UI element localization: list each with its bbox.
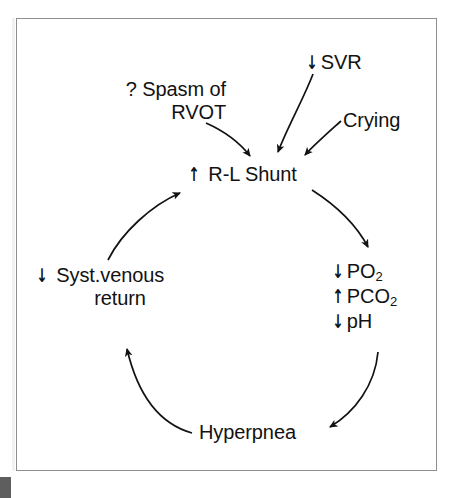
down-arrow-icon: ↓ — [332, 311, 343, 332]
edge-gases-to-hyperpnea — [330, 352, 378, 427]
down-arrow-icon: ↓ — [306, 52, 317, 73]
node-ph: ↓pH — [330, 310, 397, 333]
node-spasm-line1: ? Spasm of — [126, 78, 226, 100]
up-arrow-icon: ↑ — [188, 164, 199, 185]
node-rl-shunt-label: R-L Shunt — [208, 163, 296, 185]
node-spasm-line2: RVOT — [171, 101, 226, 123]
node-hyperpnea: Hyperpnea — [199, 421, 296, 444]
node-svr-label: SVR — [321, 51, 362, 73]
node-po2: ↓PO2 — [330, 260, 397, 285]
node-ph-label: pH — [347, 310, 372, 332]
edge-hyperpnea-to-venous — [127, 349, 192, 433]
edge-crying-to-shunt — [305, 121, 341, 155]
down-arrow-icon: ↓ — [36, 265, 47, 286]
node-pco2-label: PCO — [347, 285, 390, 307]
node-hyperpnea-label: Hyperpnea — [199, 421, 296, 443]
edge-shunt-to-gases — [312, 190, 368, 247]
node-blood-gases: ↓PO2 ↑PCO2 ↓pH — [330, 260, 397, 333]
edge-venous-to-shunt — [108, 193, 180, 260]
node-pco2: ↑PCO2 — [330, 285, 397, 310]
node-systemic-venous-return: ↓ Syst.venous return — [34, 264, 194, 309]
node-crying: Crying — [343, 109, 400, 132]
node-spasm-of-rvot: ? Spasm of RVOT — [104, 78, 226, 123]
node-venous-line2: return — [34, 287, 194, 310]
edge-svr-to-shunt — [278, 74, 313, 152]
node-crying-label: Crying — [343, 109, 400, 131]
edge-spasm-to-shunt — [206, 123, 250, 156]
node-po2-subscript: 2 — [376, 269, 383, 284]
node-po2-label: PO — [347, 260, 376, 282]
node-svr: ↓SVR — [304, 51, 362, 74]
node-venous-line1: Syst.venous — [56, 264, 164, 286]
node-pco2-subscript: 2 — [390, 294, 397, 309]
up-arrow-icon: ↑ — [332, 286, 343, 307]
down-arrow-icon: ↓ — [332, 261, 343, 282]
diagram-canvas: ? Spasm of RVOT ↓SVR Crying ↑ R-L Shunt … — [0, 0, 450, 498]
node-rl-shunt: ↑ R-L Shunt — [186, 163, 297, 186]
